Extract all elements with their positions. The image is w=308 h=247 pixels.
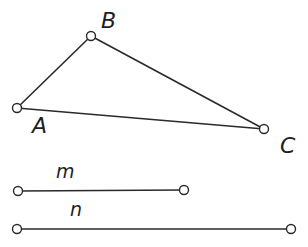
segment-n-start-point <box>13 225 22 234</box>
segment-m-end-point <box>180 186 189 195</box>
side-bc <box>91 36 264 129</box>
segment-m <box>18 190 184 191</box>
geometry-diagram: A B C m n <box>0 0 308 247</box>
point-a <box>13 104 22 113</box>
point-c <box>260 125 269 134</box>
label-a: A <box>30 113 47 138</box>
label-b: B <box>101 8 116 33</box>
segment-n-end-point <box>287 225 296 234</box>
label-n: n <box>70 198 82 220</box>
side-ca <box>17 108 264 129</box>
segment-m-start-point <box>14 187 23 196</box>
label-c: C <box>280 133 296 158</box>
point-b <box>87 32 96 41</box>
label-m: m <box>56 160 75 182</box>
side-ab <box>17 36 91 108</box>
